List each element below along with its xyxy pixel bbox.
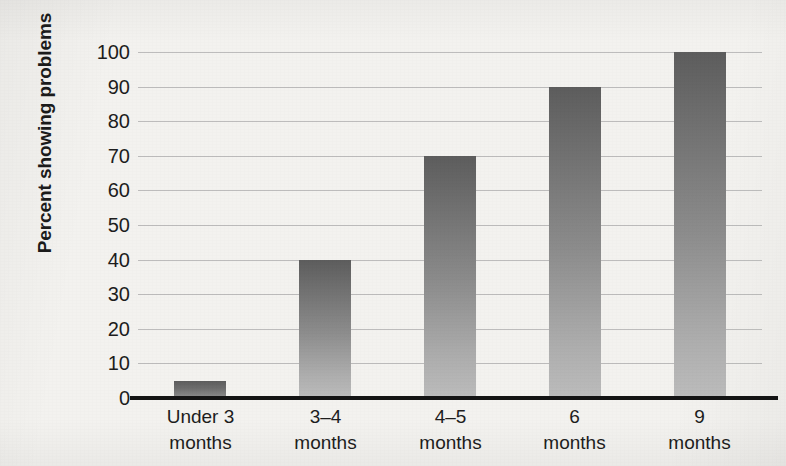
x-tick-label: 9months bbox=[637, 404, 762, 456]
gridline bbox=[138, 87, 762, 88]
x-tick-label-line1: 4–5 bbox=[388, 404, 513, 430]
bar bbox=[549, 87, 601, 398]
y-tick-label: 50 bbox=[84, 215, 130, 235]
y-tick-label: 0 bbox=[84, 388, 130, 408]
x-tick-label-line1: 6 bbox=[512, 404, 637, 430]
y-tick-label: 30 bbox=[84, 284, 130, 304]
plot-area bbox=[138, 52, 762, 398]
y-axis-title: Percent showing problems bbox=[34, 0, 56, 298]
x-tick-label-line1: 3–4 bbox=[263, 404, 388, 430]
y-tick-label: 90 bbox=[84, 77, 130, 97]
x-tick-label-line2: months bbox=[512, 430, 637, 456]
x-tick-label: 3–4months bbox=[263, 404, 388, 456]
gridline bbox=[138, 121, 762, 122]
y-axis-tick-labels: 1009080706050403020100 bbox=[78, 52, 130, 398]
x-tick-label: 4–5months bbox=[388, 404, 513, 456]
y-tick-label: 60 bbox=[84, 180, 130, 200]
x-axis-line bbox=[130, 396, 778, 400]
y-tick-label: 20 bbox=[84, 319, 130, 339]
x-tick-label-line2: months bbox=[263, 430, 388, 456]
x-tick-label: 6months bbox=[512, 404, 637, 456]
gridline bbox=[138, 52, 762, 53]
y-tick-label: 10 bbox=[84, 353, 130, 373]
x-tick-label-line2: months bbox=[388, 430, 513, 456]
y-tick-label: 70 bbox=[84, 146, 130, 166]
x-tick-label-line1: Under 3 bbox=[138, 404, 263, 430]
bar bbox=[424, 156, 476, 398]
x-tick-label: Under 3months bbox=[138, 404, 263, 456]
y-tick-label: 80 bbox=[84, 111, 130, 131]
bar bbox=[299, 260, 351, 398]
y-tick-label: 40 bbox=[84, 250, 130, 270]
x-tick-label-line1: 9 bbox=[637, 404, 762, 430]
chart-figure: Percent showing problems 100908070605040… bbox=[0, 0, 786, 466]
x-axis-category-labels: Under 3months3–4months4–5months6months9m… bbox=[138, 404, 762, 464]
x-tick-label-line2: months bbox=[138, 430, 263, 456]
y-tick-label: 100 bbox=[84, 42, 130, 62]
bar bbox=[674, 52, 726, 398]
x-tick-label-line2: months bbox=[637, 430, 762, 456]
